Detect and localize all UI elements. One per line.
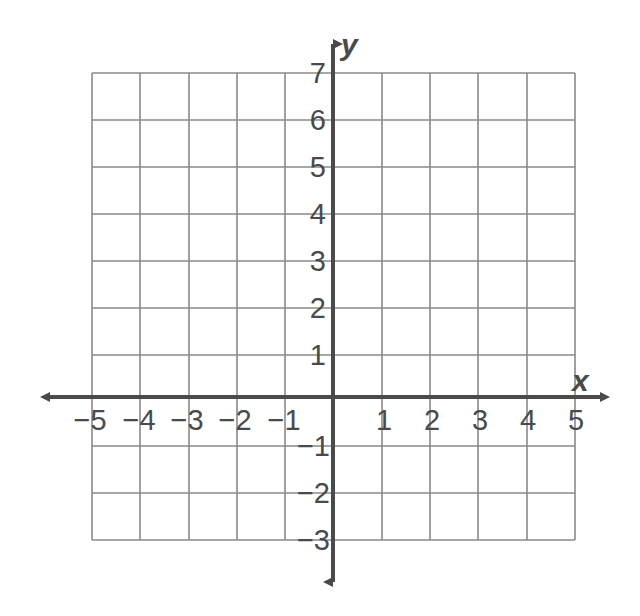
- x-tick-label-5: 5: [568, 406, 584, 435]
- x-tick-label--2: −2: [218, 406, 251, 435]
- y-tick-label--3: −3: [297, 526, 330, 555]
- y-tick-label-4: 4: [310, 200, 326, 229]
- x-tick-label-4: 4: [520, 406, 536, 435]
- y-tick-label-6: 6: [310, 106, 326, 135]
- y-tick-label-5: 5: [310, 153, 326, 182]
- x-tick-label--3: −3: [170, 406, 203, 435]
- y-tick-label-3: 3: [310, 247, 326, 276]
- y-tick-label--2: −2: [297, 479, 330, 508]
- y-tick-label-1: 1: [310, 341, 326, 370]
- coordinate-grid-figure: y x −5 −4 −3 −2 −1 1 2 3 4 5 7 6 5 4 3 2…: [0, 0, 640, 616]
- x-tick-label--4: −4: [122, 406, 155, 435]
- y-tick-label--1: −1: [297, 432, 330, 461]
- y-tick-label-7: 7: [310, 59, 326, 88]
- x-tick-label-2: 2: [424, 406, 440, 435]
- x-tick-label-3: 3: [472, 406, 488, 435]
- x-tick-label--1: −1: [267, 406, 300, 435]
- x-tick-label--5: −5: [73, 406, 106, 435]
- y-axis-label: y: [341, 30, 358, 60]
- x-tick-label-1: 1: [376, 406, 392, 435]
- x-axis-label: x: [572, 366, 589, 396]
- y-tick-label-2: 2: [310, 294, 326, 323]
